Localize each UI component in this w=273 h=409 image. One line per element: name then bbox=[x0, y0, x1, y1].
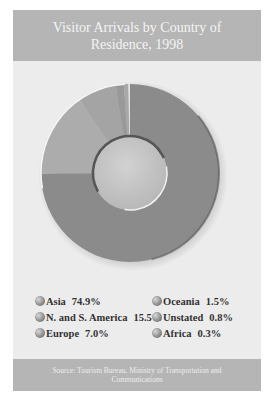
legend-item-africa: Africa 0.3% bbox=[152, 326, 221, 340]
legend-marker-icon bbox=[152, 328, 162, 338]
legend-item-asia: Asia 74.9% bbox=[35, 294, 101, 308]
legend-item-americas: N. and S. America 15.5% bbox=[35, 310, 162, 324]
legend-marker-icon bbox=[35, 312, 45, 322]
chart-header: Visitor Arrivals by Country of Residence… bbox=[13, 10, 261, 61]
chart-title: Visitor Arrivals by Country of Residence… bbox=[37, 19, 237, 53]
donut-chart bbox=[13, 61, 261, 291]
legend-marker-icon bbox=[35, 328, 45, 338]
legend-item-europe: Europe 7.0% bbox=[35, 326, 109, 340]
chart-legend: Asia 74.9% N. and S. America 15.5% Europ… bbox=[35, 288, 261, 348]
legend-marker-icon bbox=[152, 312, 162, 322]
legend-marker-icon bbox=[152, 296, 162, 306]
chart-footer: Source: Tourism Bureau, Ministry of Tran… bbox=[13, 359, 261, 391]
donut-chart-svg bbox=[13, 61, 261, 291]
chart-panel: Visitor Arrivals by Country of Residence… bbox=[13, 10, 261, 391]
legend-marker-icon bbox=[35, 296, 45, 306]
legend-item-oceania: Oceania 1.5% bbox=[152, 294, 229, 308]
source-note: Source: Tourism Bureau, Ministry of Tran… bbox=[32, 366, 242, 384]
legend-item-unstated: Unstated 0.8% bbox=[152, 310, 233, 324]
